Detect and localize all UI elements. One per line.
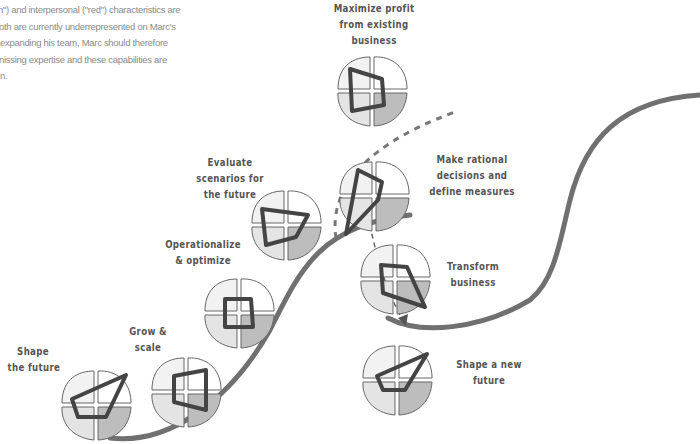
label-line: the future [189,186,271,202]
label-line: Transform [443,258,504,274]
label-evaluate-scenarios: Evaluate scenarios for the future [189,154,271,202]
label-line: the future [8,359,59,375]
label-line: scale [122,339,174,355]
label-operationalize: Operationalize & optimize [158,236,248,268]
label-line: Shape [8,343,59,359]
label-line: Shape a new [452,356,526,372]
label-line: future [452,372,526,388]
label-transform-business: Transform business [443,258,504,290]
label-line: & optimize [158,252,248,268]
label-shape-the-future: Shape the future [8,343,59,375]
label-line: define measures [423,183,521,199]
label-line: business [328,32,420,48]
growth-curve-2 [388,95,700,328]
label-make-rational-decisions: Make rational decisions and define measu… [423,151,521,199]
label-line: from existing [328,16,420,32]
label-shape-a-new-future: Shape a new future [452,356,526,388]
stage-node-operationalize [205,279,274,348]
label-maximize-profit: Maximize profit from existing business [328,0,420,48]
stage-node-maximize-profit [338,57,407,126]
stage-node-transform-business [361,245,430,314]
label-line: scenarios for [189,170,271,186]
label-grow-and-scale: Grow & scale [122,323,174,355]
stage-node-shape-a-new-future [363,346,432,415]
label-line: Operationalize [158,236,248,252]
stage-node-grow-and-scale [152,358,221,427]
label-line: Evaluate [189,154,271,170]
label-line: Make rational [423,151,521,167]
label-line: business [443,274,504,290]
label-line: Grow & [122,323,174,339]
label-line: Maximize profit [328,0,420,16]
stage-node-shape-the-future [62,371,131,440]
label-line: decisions and [423,167,521,183]
s-curve-diagram [0,0,700,444]
